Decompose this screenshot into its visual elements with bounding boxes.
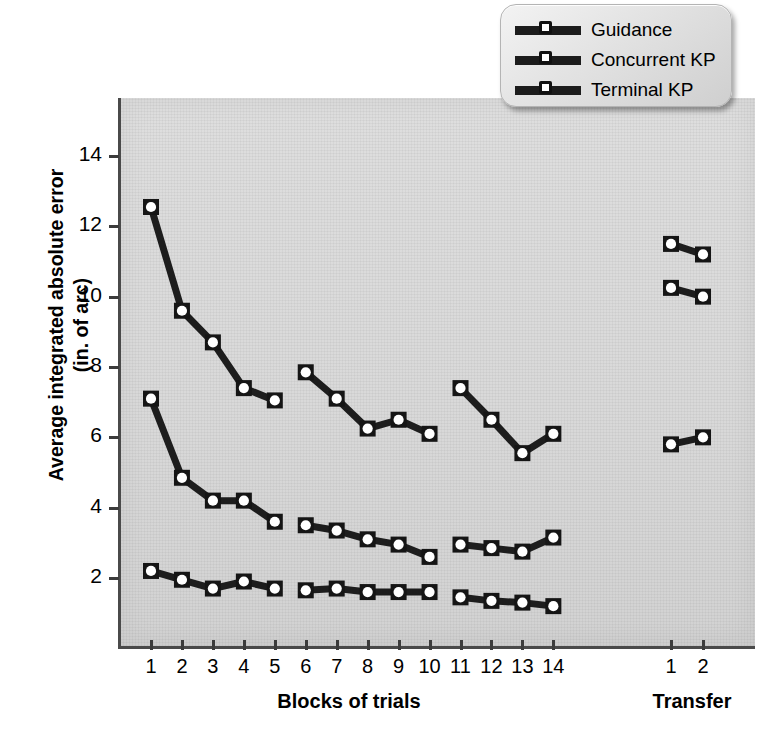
data-point-center: [698, 432, 708, 442]
data-point-center: [424, 429, 434, 439]
legend-item-terminal-kp[interactable]: Terminal KP: [515, 77, 693, 103]
data-point-center: [486, 543, 496, 553]
legend-item-guidance[interactable]: Guidance: [515, 17, 672, 43]
data-point-center: [177, 473, 187, 483]
data-point-center: [424, 552, 434, 562]
series-concurrent-kp: [143, 280, 711, 565]
series-line: [461, 597, 554, 606]
data-point-center: [177, 306, 187, 316]
data-point-center: [208, 496, 218, 506]
data-point-center: [239, 383, 249, 393]
legend: Guidance Concurrent KP Terminal KP: [500, 4, 732, 107]
legend-marker-icon: [515, 26, 581, 35]
data-point-center: [517, 547, 527, 557]
data-point-center: [301, 585, 311, 595]
data-point-center: [455, 383, 465, 393]
y-axis-title: Average integrated absolute error (in. o…: [44, 125, 94, 525]
data-point-center: [363, 534, 373, 544]
data-point-center: [394, 587, 404, 597]
x-axis-title: Blocks of trials: [229, 690, 469, 713]
series-line: [461, 388, 554, 453]
data-point-center: [239, 496, 249, 506]
data-point-center: [548, 601, 558, 611]
data-point-center: [394, 415, 404, 425]
data-point-center: [517, 598, 527, 608]
data-point-center: [270, 517, 280, 527]
series-terminal-kp: [143, 429, 711, 614]
data-point-center: [332, 394, 342, 404]
data-point-center: [424, 587, 434, 597]
series-canvas: [0, 0, 774, 733]
data-point-center: [270, 395, 280, 405]
data-point-center: [363, 587, 373, 597]
data-point-center: [146, 566, 156, 576]
data-point-center: [455, 592, 465, 602]
y-axis-title-line1: Average integrated absolute error: [44, 125, 69, 525]
data-point-center: [332, 525, 342, 535]
data-point-center: [177, 575, 187, 585]
data-point-center: [698, 292, 708, 302]
data-point-center: [208, 337, 218, 347]
data-point-center: [548, 429, 558, 439]
chart-figure: 2468101214 123456789101112131412 Average…: [0, 0, 774, 733]
data-point-center: [486, 415, 496, 425]
data-point-center: [146, 394, 156, 404]
data-point-center: [486, 596, 496, 606]
data-point-center: [666, 283, 676, 293]
data-point-center: [208, 583, 218, 593]
series-line: [151, 207, 275, 400]
y-axis-title-line2: (in. of arc): [69, 125, 94, 525]
legend-marker-icon: [515, 56, 581, 65]
legend-marker-icon: [515, 86, 581, 95]
data-point-center: [455, 539, 465, 549]
legend-label: Terminal KP: [591, 79, 693, 101]
data-point-center: [363, 423, 373, 433]
series-line: [461, 538, 554, 552]
data-point-center: [394, 539, 404, 549]
data-point-center: [270, 583, 280, 593]
data-point-center: [666, 239, 676, 249]
data-point-center: [517, 448, 527, 458]
data-point-center: [301, 367, 311, 377]
data-point-center: [146, 202, 156, 212]
data-point-center: [332, 583, 342, 593]
legend-label: Concurrent KP: [591, 49, 716, 71]
series-guidance: [143, 199, 711, 461]
data-point-center: [548, 532, 558, 542]
data-point-center: [301, 520, 311, 530]
data-point-center: [666, 439, 676, 449]
x-axis-transfer-title: Transfer: [627, 690, 757, 713]
legend-label: Guidance: [591, 19, 672, 41]
data-point-center: [698, 249, 708, 259]
data-point-center: [239, 576, 249, 586]
legend-item-concurrent-kp[interactable]: Concurrent KP: [515, 47, 716, 73]
